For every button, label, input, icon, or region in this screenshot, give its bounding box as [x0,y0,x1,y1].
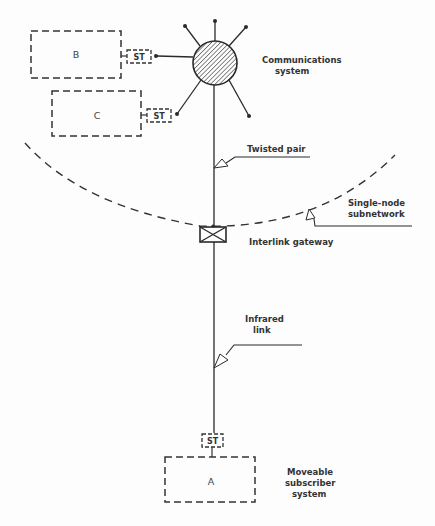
box-a-label: A [208,476,215,487]
communications-hub-icon [193,41,237,85]
diagram-canvas: B ST C ST Communications system [0,0,435,526]
subnetwork-label-line2: subnetwork [348,209,405,219]
infrared-link-leader [214,345,302,368]
box-c-label: C [94,110,101,121]
infrared-label-line2: link [253,325,271,335]
subscriber-box-c: C [52,91,141,136]
subnetwork-boundary-arc [25,143,395,226]
st-a-label: ST [207,437,219,446]
station-terminal-b: ST [121,50,151,63]
hub-label-line2: system [275,66,309,76]
subnetwork-label-line1: Single-node [348,198,405,208]
station-terminal-a: ST [202,434,223,457]
st-c-label: ST [153,112,165,121]
box-b-label: B [73,49,80,60]
hub-label-line1: Communications [262,55,342,65]
interlink-gateway-icon [200,224,226,242]
subscriber-box-b: B [31,31,121,78]
moveable-label-line1: Moveable [287,467,333,477]
moveable-label-line3: system [292,489,326,499]
twisted-pair-leader [214,157,310,168]
infrared-label-line1: Infrared [245,314,284,324]
st-b-label: ST [133,53,145,62]
gateway-label: Interlink gateway [249,237,334,247]
twisted-pair-label: Twisted pair [247,144,306,154]
subscriber-box-a: A [165,457,255,502]
moveable-label-line2: subscriber [285,478,336,488]
station-terminal-c: ST [141,109,171,122]
